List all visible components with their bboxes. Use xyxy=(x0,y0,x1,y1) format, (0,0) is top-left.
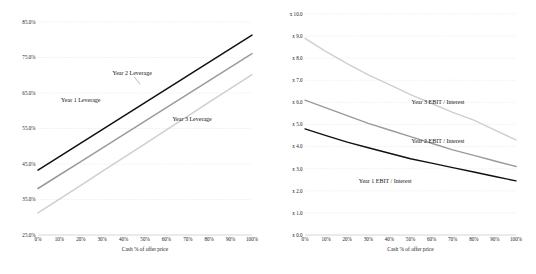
x-axis-tick-label: 30% xyxy=(98,236,108,242)
x-axis-tick-label: 90% xyxy=(490,236,500,242)
x-axis-tick-label: 20% xyxy=(76,236,86,242)
series-annotation-label: Year 2 Leverage xyxy=(112,70,152,76)
x-axis-tick-label: 10% xyxy=(55,236,65,242)
x-axis-tick-label: 10% xyxy=(321,236,331,242)
y-axis-tick-label: x 6.0 xyxy=(292,99,303,105)
x-axis-tick-label: 50% xyxy=(406,236,416,242)
coverage-data-lines xyxy=(305,38,516,181)
x-axis-tick-label: 70% xyxy=(448,236,458,242)
y-axis-tick-label: x 4.0 xyxy=(292,143,303,149)
leverage-xaxis-title: Cash % of offer price xyxy=(122,246,169,252)
leverage-xtick-labels: 0%10%20%30%40%50%60%70%80%90%100% xyxy=(35,236,259,242)
coverage-ytick-labels: x 10.0x 9.0x 8.0x 7.0x 6.0x 5.0x 4.0x 3.… xyxy=(290,11,303,238)
y-axis-tick-label: 65.0% xyxy=(22,90,36,96)
x-axis-tick-label: 60% xyxy=(427,236,437,242)
x-axis-tick-label: 90% xyxy=(226,236,236,242)
x-axis-tick-label: 0% xyxy=(302,236,310,242)
coverage-xtick-labels: 0%10%20%30%40%50%60%70%80%90%100% xyxy=(302,236,523,242)
leverage-chart-svg: 85.0%75.0%65.0%55.0%45.0%35.0%25.0% 0%10… xyxy=(0,0,268,274)
x-axis-tick-label: 100% xyxy=(246,236,259,242)
leverage-ytick-labels: 85.0%75.0%65.0%55.0%45.0%35.0%25.0% xyxy=(22,19,36,238)
x-axis-title: Cash % of offer price xyxy=(122,246,169,252)
series-annotation-label: Year 3 Leverage xyxy=(172,116,212,122)
x-axis-tick-label: 0% xyxy=(35,236,43,242)
y-axis-tick-label: x 10.0 xyxy=(290,11,303,17)
y-axis-tick-label: x 2.0 xyxy=(292,188,303,194)
x-axis-tick-label: 40% xyxy=(119,236,129,242)
x-axis-tick-label: 30% xyxy=(364,236,374,242)
leverage-data-lines xyxy=(38,35,252,213)
y-axis-tick-label: x 7.0 xyxy=(292,77,303,83)
y-axis-tick-label: 45.0% xyxy=(22,161,36,167)
x-axis-tick-label: 80% xyxy=(469,236,479,242)
series-line xyxy=(305,100,516,166)
leverage-chart-panel: 85.0%75.0%65.0%55.0%45.0%35.0%25.0% 0%10… xyxy=(0,0,268,274)
x-axis-title: Cash % of offer price xyxy=(387,246,434,252)
coverage-xaxis-title: Cash % of offer price xyxy=(387,246,434,252)
y-axis-tick-label: 75.0% xyxy=(22,54,36,60)
y-axis-tick-label: x 9.0 xyxy=(292,33,303,39)
y-axis-tick-label: x 3.0 xyxy=(292,166,303,172)
series-annotation-label: Year 1 Leverage xyxy=(61,97,101,103)
series-line xyxy=(38,75,252,213)
x-axis-tick-label: 20% xyxy=(343,236,353,242)
x-axis-tick-label: 100% xyxy=(510,236,523,242)
y-axis-tick-label: 55.0% xyxy=(22,125,36,131)
x-axis-tick-label: 50% xyxy=(140,236,150,242)
x-axis-tick-label: 40% xyxy=(385,236,395,242)
series-annotation-label: Year 2 EBIT / Interest xyxy=(411,138,464,144)
y-axis-tick-label: x 1.0 xyxy=(292,210,303,216)
y-axis-tick-label: x 8.0 xyxy=(292,55,303,61)
x-axis-tick-label: 80% xyxy=(205,236,215,242)
x-axis-tick-label: 60% xyxy=(162,236,172,242)
series-annotation-label: Year 3 EBIT / Interest xyxy=(411,99,464,105)
coverage-chart-svg: x 10.0x 9.0x 8.0x 7.0x 6.0x 5.0x 4.0x 3.… xyxy=(268,0,536,274)
y-axis-tick-label: 35.0% xyxy=(22,196,36,202)
x-axis-tick-label: 70% xyxy=(183,236,193,242)
leverage-gridlines xyxy=(38,22,252,200)
two-panel-chart-figure: 85.0%75.0%65.0%55.0%45.0%35.0%25.0% 0%10… xyxy=(0,0,536,274)
series-annotation-label: Year 1 EBIT / Interest xyxy=(359,178,412,184)
y-axis-tick-label: 85.0% xyxy=(22,19,36,25)
y-axis-tick-label: x 5.0 xyxy=(292,121,303,127)
coverage-chart-panel: x 10.0x 9.0x 8.0x 7.0x 6.0x 5.0x 4.0x 3.… xyxy=(268,0,536,274)
